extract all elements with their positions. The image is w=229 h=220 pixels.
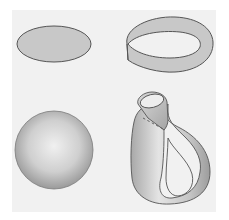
sphere-shape bbox=[15, 111, 93, 189]
surfaces-figure bbox=[0, 0, 229, 220]
mobius-strip-shape bbox=[127, 17, 213, 72]
klein-bottle-shape bbox=[131, 92, 210, 204]
disk-shape bbox=[17, 26, 91, 62]
